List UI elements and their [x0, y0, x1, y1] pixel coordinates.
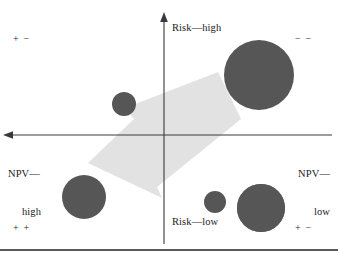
quadrant-mark-top-right: − − [295, 33, 312, 44]
axis-label-risk-low: Risk—low [172, 216, 218, 229]
axis-label-risk-high: Risk—high [172, 22, 221, 35]
axis-label-npv-low: NPV— low [258, 143, 330, 243]
bubble-bottom-left [204, 191, 226, 213]
axis-label-npv-high-line1: NPV— [8, 168, 41, 181]
horizontal-axis-arrowhead [3, 131, 13, 138]
axis-label-npv-high-line2: high [8, 206, 41, 219]
quadrant-mark-top-left: + − [13, 33, 30, 44]
bubble-top-right-large [62, 175, 106, 219]
risk-npv-matrix-figure: Risk—high Risk—low NPV— high NPV— low + … [0, 0, 338, 260]
quadrant-mark-bottom-left: + + [13, 222, 30, 233]
axis-label-npv-low-line1: NPV— [258, 168, 330, 181]
vertical-axis-arrowhead [160, 12, 168, 22]
bubble-top-left-small [224, 40, 294, 110]
quadrant-mark-bottom-right: + − [295, 222, 312, 233]
bubble-top-left-large [112, 92, 136, 116]
axis-label-npv-low-line2: low [258, 206, 330, 219]
